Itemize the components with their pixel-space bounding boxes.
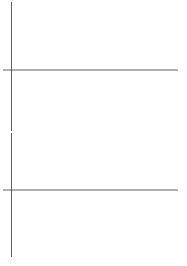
top-waveform-panel: [0, 0, 187, 133]
bottom-waveform-panel: [0, 133, 187, 266]
waveform-figure: [0, 0, 187, 266]
bottom-waveform-plot: [0, 133, 187, 266]
top-waveform-plot: [0, 0, 187, 133]
